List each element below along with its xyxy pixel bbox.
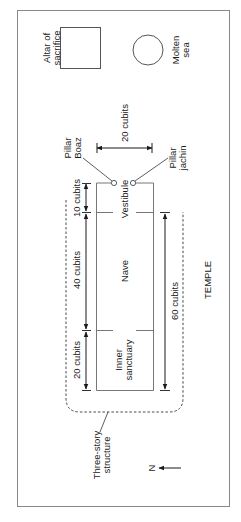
altar-square [61, 28, 101, 69]
molten-sea-label-line2: sea [180, 42, 191, 58]
pillar-boaz: Pillar Boaz [62, 137, 117, 186]
altar-of-sacrifice: Altar of sacrifice [41, 28, 101, 69]
sanctuary-length-label: 20 cubits [71, 341, 82, 379]
width-dimension: 20 cubits [97, 104, 152, 153]
inner-sanctuary-label-line2: sanctuary [123, 339, 134, 380]
outer-frame [18, 11, 230, 507]
pillar-boaz-label-line2: Boaz [72, 137, 83, 159]
width-label: 20 cubits [119, 104, 130, 142]
molten-sea-circle [133, 35, 163, 65]
vestibule-length-label: 10 cubits [71, 179, 82, 217]
total-length-label: 60 cubits [169, 282, 180, 320]
pillar-jachin: Pillar jachin [130, 146, 188, 186]
nave-label: Nave [119, 260, 130, 282]
temple-diagram: Altar of sacrifice Molten sea 20 cubits … [0, 0, 241, 522]
pillar-jachin-circle [130, 180, 135, 185]
north-label: N [146, 464, 157, 471]
three-story-label: Three-story structure [91, 412, 112, 479]
three-story-label-line2: structure [101, 437, 112, 474]
altar-label-line2: sacrifice [51, 31, 62, 66]
pillar-boaz-circle [111, 180, 116, 185]
left-dimensions: 10 cubits 40 cubits 20 cubits [71, 179, 91, 391]
vestibule-label: Vestibule [119, 180, 130, 219]
temple-building: Vestibule Nave Inner sanctuary [97, 180, 154, 391]
north-compass: N [146, 464, 181, 471]
nave-length-label: 40 cubits [71, 251, 82, 289]
total-length-dimension: 60 cubits [160, 213, 180, 391]
temple-title: TEMPLE [202, 261, 213, 299]
molten-sea: Molten sea [133, 35, 191, 65]
pillar-jachin-label-line2: jachin [177, 146, 188, 172]
